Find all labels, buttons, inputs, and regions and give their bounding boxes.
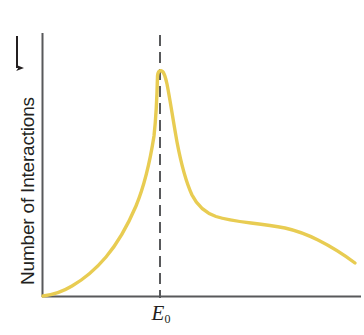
resonance-curve [43, 71, 355, 296]
x-axis-tick-label-e0: E0 [140, 301, 182, 327]
x-tick-base: E [152, 301, 165, 325]
x-tick-subscript: 0 [164, 312, 170, 326]
y-axis-title: Number of Interactions [17, 71, 39, 311]
resonance-curve-figure: Number of Interactions E0 [0, 0, 364, 335]
chart-canvas [0, 0, 364, 335]
